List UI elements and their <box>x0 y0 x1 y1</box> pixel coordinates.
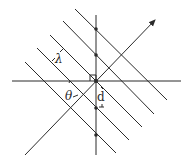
propagation-arrow <box>25 20 155 155</box>
intersection-dot <box>94 53 98 57</box>
intersection-dot <box>94 106 98 110</box>
intersection-dot <box>94 27 98 31</box>
angle-label: θ <box>65 89 73 103</box>
wavelength-label: λ <box>54 52 63 66</box>
wave-diagram: λ θ d <box>0 0 189 165</box>
angle-tick <box>73 95 78 97</box>
spacing-label: d <box>97 90 105 104</box>
intersection-dot <box>94 133 98 137</box>
wavefront-line <box>75 9 167 100</box>
intersection-dot <box>94 79 98 83</box>
